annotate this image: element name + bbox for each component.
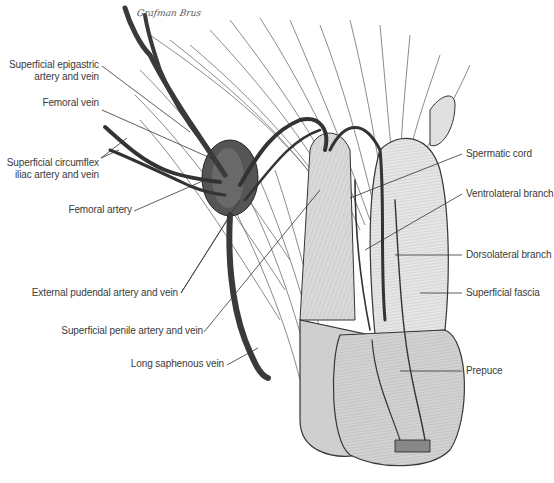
label-long-saphenous: Long saphenous vein	[131, 358, 224, 370]
label-external-pudendal: External pudendal artery and vein	[32, 287, 178, 299]
label-superficial-penile: Superficial penile artery and vein	[61, 325, 203, 337]
label-prepuce: Prepuce	[466, 365, 503, 377]
ventrolateral-branch-vessel	[355, 180, 370, 330]
label-superficial-circumflex: Superficial circumflex iliac artery and …	[7, 157, 99, 181]
label-dorsolateral-branch: Dorsolateral branch	[466, 249, 551, 261]
label-superficial-epigastric: Superficial epigastric artery and vein	[9, 59, 99, 83]
label-femoral-vein: Femoral vein	[42, 97, 99, 109]
superficial-epigastric-vessel	[125, 8, 225, 175]
label-femoral-artery: Femoral artery	[68, 204, 132, 216]
label-superficial-fascia: Superficial fascia	[466, 287, 540, 299]
label-ventrolateral-branch: Ventrolateral branch	[466, 188, 554, 200]
artist-signature: Grafman Brus	[136, 8, 202, 18]
label-spermatic-cord: Spermatic cord	[466, 148, 532, 160]
